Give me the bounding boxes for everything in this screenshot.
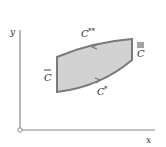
diagram-canvas: y x C ** C * C C — [0, 0, 166, 147]
svg-text:*: * — [104, 85, 108, 93]
label-c-star: C * — [97, 85, 108, 97]
label-c-double-star: C ** — [81, 27, 96, 39]
shaded-region — [57, 39, 132, 92]
label-c-triple-bar: C — [137, 43, 145, 59]
svg-text:**: ** — [88, 27, 96, 35]
svg-text:C: C — [44, 72, 52, 83]
svg-text:C: C — [137, 48, 145, 59]
x-axis-label: x — [146, 135, 151, 145]
label-c-bar: C — [44, 70, 52, 83]
y-axis-label: y — [9, 27, 16, 37]
origin-marker — [18, 128, 22, 132]
